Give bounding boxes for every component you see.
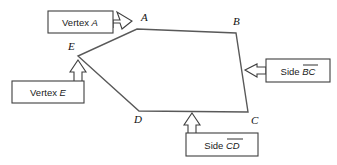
callout-side-cd: Side CD	[184, 113, 258, 156]
arrow-left-icon	[245, 64, 266, 77]
vertex-label-c: C	[251, 114, 259, 126]
callout-text-vertex-e: Vertex E	[30, 87, 67, 98]
geometry-figure: A B C D E Vertex A Vertex E Side BC Si	[0, 0, 337, 165]
vertex-label-b: B	[233, 15, 240, 27]
callout-vertex-e: Vertex E	[12, 60, 86, 103]
callout-text-vertex-a: Vertex A	[62, 17, 98, 28]
callout-text-side-cd: Side CD	[204, 140, 240, 151]
vertex-label-e: E	[67, 40, 75, 52]
vertex-label-d: D	[133, 113, 142, 125]
pentagon-shape	[78, 29, 248, 112]
callout-text-side-bc: Side BC	[281, 66, 316, 77]
arrow-up-icon-cd	[184, 113, 200, 134]
callout-side-bc: Side BC	[245, 59, 330, 82]
callout-vertex-a: Vertex A	[48, 11, 132, 33]
vertex-label-a: A	[140, 11, 148, 23]
arrow-up-icon-e	[70, 60, 86, 82]
arrow-up-right-icon	[113, 12, 132, 29]
